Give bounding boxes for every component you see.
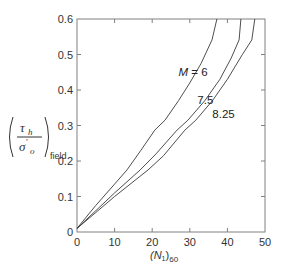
curve-line xyxy=(77,19,241,228)
right-paren xyxy=(45,117,49,157)
y-tick-label: 0 xyxy=(67,226,73,238)
y-label-tau: τ xyxy=(20,120,26,135)
x-tick-label: 0 xyxy=(74,236,80,248)
curve-labels: M = 67.58.25 xyxy=(179,66,235,121)
y-axis-label-svg: τ h σ ′ o field xyxy=(4,114,70,160)
curve-label: 8.25 xyxy=(212,108,234,120)
x-label-open: (N xyxy=(150,249,162,261)
x-axis-label: (N1)60 xyxy=(150,249,178,264)
y-label-tau-sub: h xyxy=(28,127,33,137)
y-tick-label: 0.6 xyxy=(58,13,73,25)
y-tick-label: 0.4 xyxy=(58,84,73,96)
curve-line xyxy=(77,19,217,228)
curve-label: M = 6 xyxy=(179,66,208,78)
x-tick-label: 50 xyxy=(259,236,271,248)
left-paren xyxy=(10,117,14,157)
y-axis-label: τ h σ ′ o field xyxy=(4,114,70,160)
x-tick-label: 30 xyxy=(184,236,196,248)
y-label-field: field xyxy=(50,151,67,160)
plot-frame xyxy=(77,19,265,232)
x-tick-label: 20 xyxy=(146,236,158,248)
x-label-sub2: 60 xyxy=(169,255,178,264)
y-tick-label: 0.1 xyxy=(58,191,73,203)
x-tick-label: 40 xyxy=(221,236,233,248)
plot-curves xyxy=(77,19,255,228)
y-tick-label: 0.5 xyxy=(58,49,73,61)
y-label-sigma: σ xyxy=(19,139,26,154)
x-tick-label: 10 xyxy=(108,236,120,248)
y-label-prime: ′ xyxy=(26,137,28,147)
y-label-sigma-sub: o xyxy=(30,146,35,156)
curve-label: 7.5 xyxy=(197,94,213,106)
